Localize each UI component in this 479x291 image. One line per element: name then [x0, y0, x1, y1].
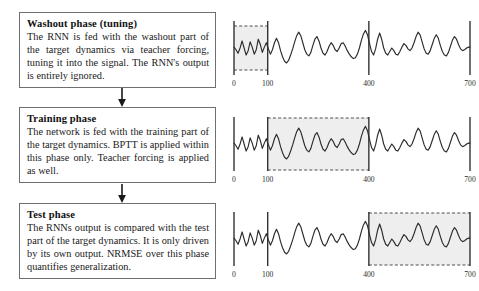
x-tick-label-100: 100	[262, 270, 274, 279]
arrow-training-to-test	[116, 184, 128, 203]
x-tick-label-100: 100	[262, 175, 274, 184]
x-tick-label-0: 0	[232, 79, 236, 88]
rnn-phase-figure: Washout phase (tuning) The RNN is fed wi…	[0, 0, 479, 291]
x-tick-label-400: 400	[363, 175, 375, 184]
plot-svg-washout-plot: 0100400700	[228, 8, 476, 96]
phase-title-training: Training phase	[27, 112, 209, 125]
arrow-washout-to-training	[116, 88, 128, 107]
signal-plot-training: 0100400700	[228, 104, 476, 192]
plot-svg-training-plot: 0100400700	[228, 104, 476, 192]
phase-title-washout: Washout phase (tuning)	[27, 17, 209, 30]
highlight-band	[268, 118, 369, 170]
x-tick-label-100: 100	[262, 79, 274, 88]
plot-svg-test-plot: 0100400700	[228, 199, 476, 287]
signal-trace	[234, 30, 470, 63]
x-tick-label-700: 700	[464, 79, 476, 88]
x-tick-label-700: 700	[464, 175, 476, 184]
phase-body-test: The RNNs output is compared with the tes…	[27, 221, 209, 273]
x-tick-label-400: 400	[363, 79, 375, 88]
phase-box-test: Test phase The RNNs output is compared w…	[19, 203, 216, 279]
x-tick-label-0: 0	[232, 175, 236, 184]
signal-plot-washout: 0100400700	[228, 8, 476, 96]
phase-box-training: Training phase The network is fed with t…	[19, 107, 216, 183]
x-tick-label-400: 400	[363, 270, 375, 279]
phase-body-training: The network is fed with the training par…	[27, 125, 209, 177]
phase-box-washout: Washout phase (tuning) The RNN is fed wi…	[19, 12, 216, 88]
phase-body-washout: The RNN is fed with the washout part of …	[27, 30, 209, 82]
signal-plot-test: 0100400700	[228, 199, 476, 287]
phase-title-test: Test phase	[27, 208, 209, 221]
highlight-band	[234, 26, 268, 70]
x-tick-label-0: 0	[232, 270, 236, 279]
x-tick-label-700: 700	[464, 270, 476, 279]
